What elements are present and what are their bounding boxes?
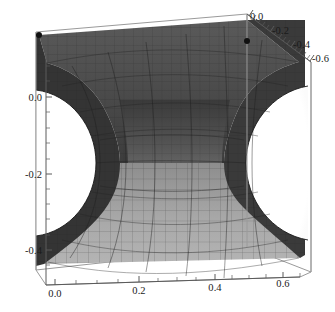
z-tick-label: -0.4 [0, 245, 42, 256]
surface-plot-figure [0, 0, 335, 312]
surface-mesh [36, 20, 308, 278]
x-axis-line [46, 277, 300, 285]
x-tick-label: 0.2 [132, 285, 145, 296]
y-tick-label: 0.0 [250, 11, 263, 22]
y-tick-label: -0.6 [312, 53, 329, 64]
x-axis [46, 272, 300, 285]
x-tick-label: 0.6 [276, 278, 289, 289]
z-tick-label: 0.0 [0, 92, 42, 103]
corner-point-right-marker [244, 38, 250, 44]
z-tick-label: -0.2 [0, 169, 42, 180]
y-tick-label: -0.2 [272, 25, 289, 36]
y-tick-label: -0.4 [293, 39, 310, 50]
corner-point-left-marker [36, 32, 42, 38]
x-tick-label: 0.0 [48, 288, 61, 299]
x-tick-label: 0.4 [208, 282, 221, 293]
